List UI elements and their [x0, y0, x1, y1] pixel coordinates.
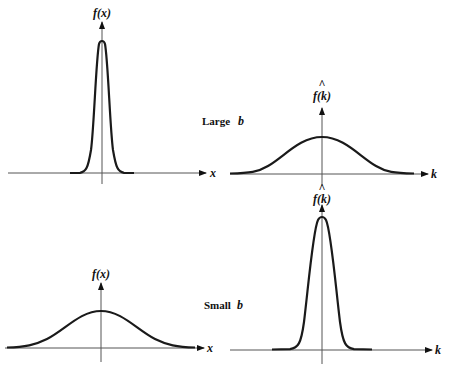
caption-small-b: Small b	[204, 298, 243, 312]
plot-top-left-fx-narrow: f(x) x	[8, 6, 216, 184]
y-axis-label: f(k)	[313, 192, 331, 206]
y-axis-label: f(x)	[93, 6, 111, 20]
plot-top-right-fk-wide: ^ f(k) k	[230, 77, 437, 186]
caption-word: Large	[202, 115, 230, 127]
fourier-gaussian-diagram: f(x) x Large b ^ f(k) k f(x) x Small b ^…	[0, 0, 455, 376]
plot-bottom-right-fk-narrow: ^ f(k) k	[230, 181, 441, 364]
x-axis-label: x	[206, 341, 213, 355]
x-axis-label: x	[209, 166, 216, 180]
caption-var: b	[237, 298, 243, 312]
y-axis-label: f(k)	[313, 89, 331, 103]
k-axis-label: k	[431, 167, 437, 181]
plot-bottom-left-fx-wide: f(x) x	[5, 267, 213, 362]
caption-word: Small	[204, 299, 231, 311]
y-axis-label: f(x)	[92, 267, 110, 281]
caption-var: b	[238, 114, 244, 128]
caption-large-b: Large b	[202, 114, 244, 128]
k-axis-label: k	[435, 343, 441, 357]
